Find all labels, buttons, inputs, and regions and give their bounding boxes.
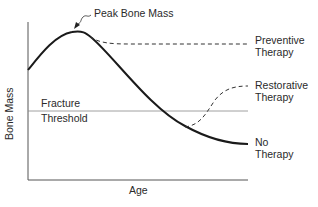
peak-bone-mass-label: Peak Bone Mass [94, 8, 173, 20]
peak-arrow-icon [78, 15, 91, 24]
preventive-therapy-curve [90, 37, 248, 44]
x-axis-label: Age [129, 185, 148, 197]
restorative-therapy-curve [185, 86, 248, 127]
preventive-therapy-label: Preventive Therapy [255, 35, 305, 58]
no-therapy-curve [28, 31, 248, 144]
y-axis-label: Bone Mass [3, 87, 15, 140]
threshold-label: Threshold [41, 113, 88, 125]
fracture-label: Fracture [41, 98, 80, 110]
restorative-therapy-label: Restorative Therapy [255, 80, 308, 103]
no-therapy-label: No Therapy [255, 137, 294, 160]
